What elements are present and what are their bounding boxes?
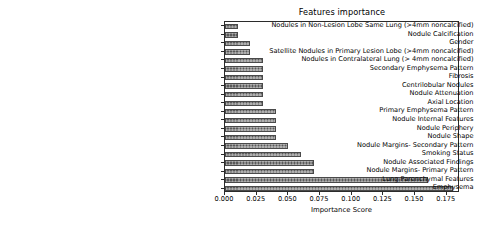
y-tick-label: Nodules in Contralateral Lung (> 4mm non… (253, 56, 477, 63)
x-tick-label: 0.175 (436, 196, 455, 203)
y-tick-mark (221, 34, 224, 35)
x-tick-label: 0.050 (278, 196, 297, 203)
y-tick-mark (221, 111, 224, 112)
y-tick-label: Secondary Emphysema Pattern (253, 65, 477, 72)
y-tick-mark (221, 42, 224, 43)
y-tick-mark (221, 59, 224, 60)
y-tick-mark (221, 128, 224, 129)
y-tick-label: Axial Location (253, 99, 477, 106)
y-tick-label: Nodule Margins- Primary Pattern (253, 167, 477, 174)
x-tick-label: 0.125 (373, 196, 392, 203)
y-tick-mark (221, 188, 224, 189)
y-tick-label: Nodule Shape (253, 133, 477, 140)
y-tick-label: Nodule Margins- Secondary Pattern (253, 142, 477, 149)
y-tick-mark (221, 162, 224, 163)
x-tick-label: 0.150 (405, 196, 424, 203)
y-tick-label: Lung Parenchymal Features (253, 176, 477, 183)
figure-canvas: Features importance Nodules in Non-Lesio… (0, 0, 477, 231)
bar (225, 49, 250, 54)
y-tick-label: Nodule Associated Findings (253, 159, 477, 166)
y-tick-label: Primary Emphysema Pattern (253, 107, 477, 114)
x-tick-label: 0.000 (215, 196, 234, 203)
y-tick-label: Nodule Periphery (253, 125, 477, 132)
x-tick-label: 0.100 (341, 196, 360, 203)
y-tick-label: Nodule Internal Features (253, 116, 477, 123)
y-tick-label: Smoking Status (253, 150, 477, 157)
y-tick-mark (221, 77, 224, 78)
y-tick-mark (221, 136, 224, 137)
y-tick-mark (221, 171, 224, 172)
y-tick-mark (221, 119, 224, 120)
y-tick-mark (221, 179, 224, 180)
x-tick-label: 0.075 (310, 196, 329, 203)
y-tick-label: Nodules in Non-Lesion Lobe Same Lung (>4… (253, 22, 477, 29)
bar (225, 41, 250, 46)
bar (225, 32, 238, 37)
y-tick-label: Gender (253, 39, 477, 46)
y-tick-label: Emphysema (253, 184, 477, 191)
y-tick-label: Fibrosis (253, 73, 477, 80)
y-tick-mark (221, 68, 224, 69)
bar (225, 24, 238, 29)
y-tick-mark (221, 154, 224, 155)
y-tick-label: Centrilobular Nodules (253, 82, 477, 89)
y-tick-mark (221, 85, 224, 86)
y-tick-label: Nodule Calcification (253, 31, 477, 38)
y-tick-mark (221, 145, 224, 146)
chart-title: Features importance (224, 7, 460, 17)
y-tick-mark (221, 51, 224, 52)
x-axis-label: Importance Score (224, 206, 459, 214)
y-tick-label: Nodule Attenuation (253, 90, 477, 97)
y-tick-label: Satellite Nodules in Primary Lesion Lobe… (253, 48, 477, 55)
x-tick-label: 0.025 (246, 196, 265, 203)
y-tick-mark (221, 25, 224, 26)
y-tick-mark (221, 102, 224, 103)
y-tick-mark (221, 94, 224, 95)
